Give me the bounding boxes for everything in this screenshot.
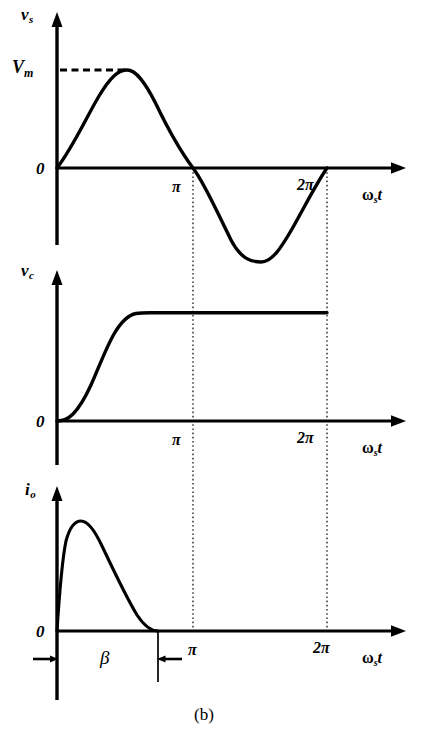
conduction-angle-label: β (100, 648, 109, 667)
vs-tick-2pi: 2π (297, 177, 314, 193)
vc-y-axis-arrow (52, 270, 63, 285)
vs-axis-label: vs (21, 6, 33, 23)
vm-label: Vm (12, 58, 33, 76)
vs-x-axis-arrow (391, 162, 406, 174)
io-axis-label: io (25, 481, 35, 498)
waveform-canvas (0, 0, 421, 739)
vc-x-axis-label: ωst (362, 440, 382, 456)
vc-tick-pi: π (172, 432, 181, 448)
vs-waveform (57, 70, 327, 262)
vc-tick-2pi: 2π (297, 430, 314, 446)
waveform-figure: vs Vm 0 π 2π ωst vc 0 π 2π ωst io 0 β π … (0, 0, 421, 739)
vc-x-axis-arrow (391, 415, 406, 427)
io-y-axis-arrow (52, 486, 63, 501)
panel-io (33, 486, 406, 700)
vc-zero-label: 0 (36, 413, 45, 430)
io-tick-pi: π (188, 642, 197, 658)
io-waveform (57, 521, 158, 631)
vs-x-axis-label: ωst (362, 187, 382, 203)
vc-waveform (57, 313, 327, 421)
vs-y-axis-arrow (52, 12, 63, 27)
io-x-axis-label: ωst (362, 650, 382, 666)
io-x-axis-arrow (391, 625, 406, 637)
vs-zero-label: 0 (36, 160, 45, 177)
vc-axis-label: vc (21, 262, 33, 279)
io-tick-2pi: 2π (313, 640, 330, 656)
panel-vs (52, 12, 407, 262)
figure-caption: (b) (194, 706, 214, 723)
panel-vc (52, 270, 407, 465)
vs-tick-pi: π (172, 179, 181, 195)
io-zero-label: 0 (36, 623, 45, 640)
